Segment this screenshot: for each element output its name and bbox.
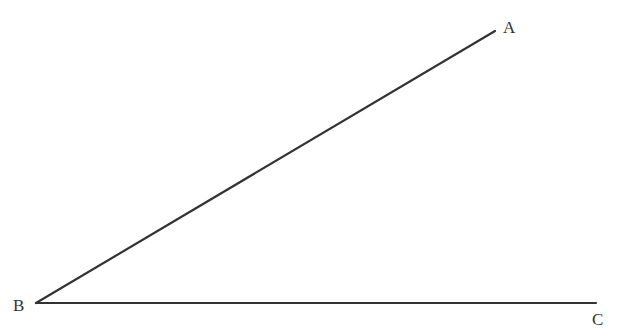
point-label-c: C: [592, 310, 603, 329]
angle-svg: A B C: [0, 0, 618, 333]
point-label-b: B: [13, 296, 24, 315]
segment-ba: [36, 31, 495, 303]
angle-diagram: A B C: [0, 0, 618, 333]
point-label-a: A: [503, 18, 516, 37]
